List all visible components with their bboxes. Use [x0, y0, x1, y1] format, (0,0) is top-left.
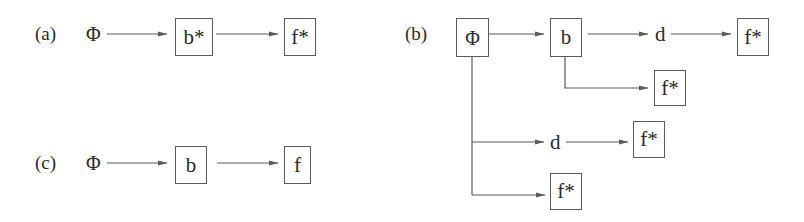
panel-label-c: (c) [35, 153, 56, 172]
node-b-d1: d [655, 24, 666, 45]
node-b-phi-label: Φ [465, 28, 480, 48]
node-a-f-box: f* [284, 18, 316, 56]
node-a-f-label: f* [291, 27, 309, 48]
node-a-b-label: b* [184, 27, 205, 48]
node-b-f1-box: f* [737, 18, 769, 56]
node-b-f4-box: f* [550, 173, 582, 210]
diagram-canvas: (a) Φ b* f* (c) Φ b f (b) Φ b d f* f* [0, 0, 804, 222]
node-b-f4-label: f* [557, 181, 575, 202]
node-c-b-label: b [186, 155, 197, 176]
edge-b-b-to-f2 [565, 57, 648, 88]
node-b-d2: d [550, 132, 561, 153]
node-b-phi-box: Φ [456, 18, 489, 57]
edges-layer [0, 0, 804, 222]
node-c-f-box: f [284, 146, 311, 184]
node-b-b-label: b [561, 27, 572, 48]
panel-b-edges [472, 34, 731, 195]
node-b-f2-label: f* [661, 78, 679, 99]
node-b-f2-box: f* [654, 70, 686, 106]
node-a-phi: Φ [86, 24, 101, 44]
node-c-b-box: b [175, 146, 207, 184]
panel-label-b: (b) [405, 24, 427, 43]
panel-label-a: (a) [35, 24, 56, 43]
node-c-f-label: f [294, 155, 301, 176]
node-b-f3-box: f* [633, 121, 665, 158]
node-b-f1-label: f* [744, 27, 762, 48]
node-b-b-box: b [550, 18, 582, 57]
node-b-f3-label: f* [640, 129, 658, 150]
node-c-phi: Φ [86, 153, 101, 173]
node-a-b-box: b* [175, 18, 213, 56]
